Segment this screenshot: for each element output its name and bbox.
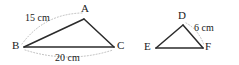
segment-ab [24,19,84,47]
vertex-label-e: E [144,41,151,52]
triangle-abc [24,19,114,47]
vertex-label-a: A [81,3,89,14]
segment-de [156,25,183,48]
measure-label-df: 6 cm [194,23,214,33]
vertex-label-b: B [12,40,19,51]
geometry-figure: A B C D E F 15 cm 20 cm 6 cm [0,0,239,65]
vertex-label-c: C [117,40,124,51]
measure-label-ab: 15 cm [25,13,50,23]
segment-ac [84,19,114,47]
vertex-label-f: F [205,41,211,52]
vertex-label-d: D [178,10,186,21]
measure-label-bc: 20 cm [55,53,80,63]
